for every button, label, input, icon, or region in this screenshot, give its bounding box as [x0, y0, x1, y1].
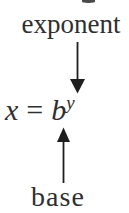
equation-base: b [51, 93, 66, 126]
cropped-text-fragment [82, 0, 95, 3]
base-label: base [22, 182, 94, 211]
equation: x=by [5, 94, 75, 126]
equals-sign: = [26, 93, 43, 126]
up-arrow-icon [56, 127, 71, 183]
equation-exponent: y [66, 92, 74, 113]
equation-lhs: x [5, 93, 18, 126]
exponent-label: exponent [14, 10, 128, 38]
down-arrow-icon [69, 42, 86, 94]
exponent-base-diagram: exponent x=by base [0, 0, 129, 213]
